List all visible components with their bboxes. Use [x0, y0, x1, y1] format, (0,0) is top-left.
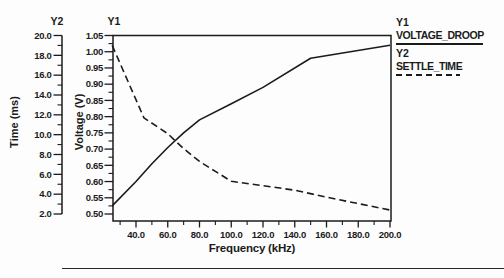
y1-tick-label: 0.80 [86, 111, 103, 122]
y2-tick-label: 10.0 [34, 129, 51, 140]
y2-axis-header: Y2 [42, 15, 72, 27]
x-tick-label: 160.0 [315, 229, 337, 240]
y2-axis-title: Time (ms) [8, 80, 20, 164]
y1-tick-label: 0.85 [86, 95, 104, 106]
y2-tick-label: 14.0 [34, 89, 51, 100]
legend-y2-axis-label: Y2 [396, 47, 484, 59]
series-settle-time [112, 45, 390, 210]
x-tick-label: 100.0 [220, 229, 242, 240]
legend-y1-axis-label: Y1 [396, 16, 484, 28]
y1-tick-label: 1.05 [86, 30, 104, 41]
y2-tick-label: 8.0 [39, 149, 51, 160]
y2-tick-label: 20.0 [34, 30, 51, 41]
legend-solid-line-key [396, 43, 483, 45]
x-tick-label: 140.0 [284, 229, 306, 240]
legend-series-settle-time: SETTLE_TIME [396, 60, 484, 72]
y1-tick-label: 0.60 [86, 176, 103, 187]
y2-tick-label: 4.0 [39, 188, 51, 199]
y1-tick-label: 0.95 [86, 62, 104, 73]
y2-tick-label: 18.0 [34, 50, 51, 61]
x-tick-label: 200.0 [379, 229, 401, 240]
y1-tick-label: 0.75 [86, 127, 104, 138]
legend-dashed-line-key [396, 74, 460, 76]
y1-tick-label: 0.70 [86, 143, 103, 154]
y1-tick-label: 1.00 [86, 46, 103, 57]
y1-axis: 1.051.000.950.900.850.800.750.700.650.60… [86, 30, 113, 220]
legend: Y1 VOLTAGE_DROOP Y2 SETTLE_TIME [396, 16, 484, 78]
y1-axis-title: Voltage (V) [73, 80, 85, 164]
series-group [112, 45, 390, 210]
chart-figure: 20.018.016.014.012.010.08.06.04.02.01.05… [0, 0, 504, 278]
y1-axis-header: Y1 [99, 15, 129, 27]
x-tick-label: 120.0 [252, 229, 274, 240]
y2-tick-label: 16.0 [34, 69, 51, 80]
y1-tick-label: 0.55 [86, 192, 104, 203]
series-voltage-droop [112, 45, 390, 206]
x-tick-label: 180.0 [347, 229, 369, 240]
x-axis-title: Frequency (kHz) [113, 242, 391, 254]
x-tick-label: 40.0 [127, 229, 144, 240]
plot-box [113, 36, 391, 222]
y1-tick-label: 0.50 [86, 208, 103, 219]
y2-tick-label: 6.0 [39, 169, 51, 180]
x-axis: 40.060.080.0100.0120.0140.0160.0180.0200… [120, 221, 401, 240]
legend-series-voltage-droop: VOLTAGE_DROOP [396, 29, 484, 41]
x-tick-label: 80.0 [191, 229, 208, 240]
y1-tick-label: 0.90 [86, 78, 103, 89]
y2-tick-label: 2.0 [39, 208, 51, 219]
y1-tick-label: 0.65 [86, 160, 104, 171]
y2-axis: 20.018.016.014.012.010.08.06.04.02.0 [34, 30, 62, 220]
y2-tick-label: 12.0 [34, 109, 51, 120]
x-tick-label: 60.0 [159, 229, 176, 240]
page-rule [62, 268, 504, 269]
